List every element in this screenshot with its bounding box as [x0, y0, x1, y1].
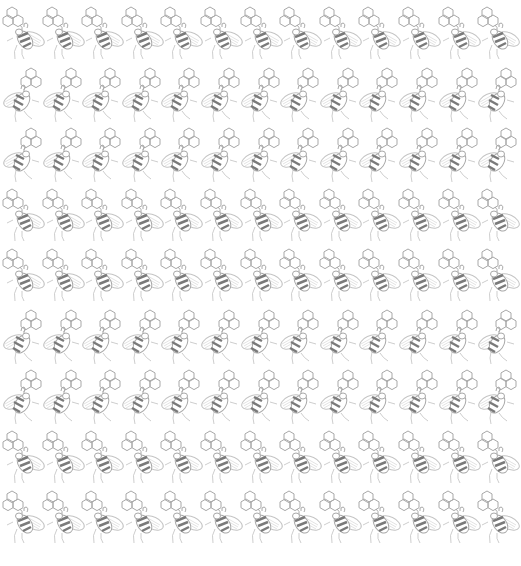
bee-honeycomb-icon: [360, 429, 404, 487]
bee-honeycomb-icon: [4, 429, 48, 487]
bee-honeycomb-icon: [202, 247, 246, 305]
bee-honeycomb-icon: [440, 489, 484, 547]
bee-honeycomb-icon: [44, 66, 88, 124]
bee-honeycomb-icon: [83, 489, 127, 547]
bee-honeycomb-icon: [321, 187, 365, 245]
bee-honeycomb-icon: [162, 308, 206, 366]
bee-honeycomb-icon: [321, 66, 365, 124]
bee-honeycomb-icon: [202, 66, 246, 124]
bee-honeycomb-icon: [123, 5, 167, 63]
bee-honeycomb-icon: [44, 429, 88, 487]
bee-honeycomb-icon: [4, 308, 48, 366]
bee-honeycomb-icon: [400, 187, 444, 245]
bee-honeycomb-icon: [360, 5, 404, 63]
bee-honeycomb-icon: [479, 126, 521, 184]
bee-honeycomb-icon: [242, 247, 286, 305]
bee-honeycomb-icon: [479, 368, 521, 426]
bee-honeycomb-icon: [162, 66, 206, 124]
bee-honeycomb-icon: [321, 247, 365, 305]
bee-honeycomb-icon: [162, 5, 206, 63]
bee-honeycomb-icon: [400, 368, 444, 426]
bee-honeycomb-icon: [83, 5, 127, 63]
bee-honeycomb-icon: [360, 368, 404, 426]
bee-honeycomb-icon: [123, 126, 167, 184]
bee-honeycomb-icon: [162, 187, 206, 245]
bee-honeycomb-icon: [281, 429, 325, 487]
bee-honeycomb-icon: [44, 489, 88, 547]
bee-honeycomb-icon: [281, 5, 325, 63]
bee-honeycomb-icon: [123, 247, 167, 305]
bee-honeycomb-icon: [123, 489, 167, 547]
bee-honeycomb-icon: [44, 126, 88, 184]
bee-honeycomb-icon: [242, 187, 286, 245]
bee-honeycomb-icon: [440, 308, 484, 366]
bee-honeycomb-icon: [479, 308, 521, 366]
bee-honeycomb-icon: [321, 126, 365, 184]
bee-honeycomb-icon: [281, 308, 325, 366]
bee-honeycomb-icon: [202, 5, 246, 63]
bee-honeycomb-icon: [400, 5, 444, 63]
bee-honeycomb-icon: [400, 66, 444, 124]
bee-honeycomb-icon: [202, 489, 246, 547]
bee-honeycomb-icon: [321, 368, 365, 426]
bee-honeycomb-icon: [281, 126, 325, 184]
bee-honeycomb-icon: [242, 489, 286, 547]
bee-honeycomb-icon: [400, 489, 444, 547]
bee-honeycomb-icon: [83, 368, 127, 426]
bee-honeycomb-icon: [281, 247, 325, 305]
bee-honeycomb-icon: [360, 187, 404, 245]
bee-honeycomb-icon: [281, 187, 325, 245]
bee-honeycomb-icon: [83, 66, 127, 124]
bee-honeycomb-icon: [440, 66, 484, 124]
bee-honeycomb-icon: [44, 368, 88, 426]
bee-honeycomb-icon: [162, 126, 206, 184]
bee-honeycomb-icon: [321, 5, 365, 63]
bee-honeycomb-icon: [83, 187, 127, 245]
bee-honeycomb-icon: [162, 247, 206, 305]
bee-honeycomb-icon: [123, 66, 167, 124]
bee-honeycomb-icon: [44, 247, 88, 305]
bee-honeycomb-icon: [281, 489, 325, 547]
bee-honeycomb-icon: [400, 308, 444, 366]
bee-honeycomb-icon: [321, 489, 365, 547]
bee-pattern-background: [0, 0, 521, 566]
bee-honeycomb-icon: [479, 5, 521, 63]
bee-honeycomb-icon: [4, 368, 48, 426]
bee-honeycomb-icon: [440, 5, 484, 63]
bee-honeycomb-icon: [440, 187, 484, 245]
bee-honeycomb-icon: [400, 126, 444, 184]
bee-honeycomb-icon: [479, 66, 521, 124]
bee-honeycomb-icon: [83, 429, 127, 487]
bee-honeycomb-icon: [440, 368, 484, 426]
bee-honeycomb-icon: [44, 5, 88, 63]
bee-honeycomb-icon: [202, 368, 246, 426]
bee-honeycomb-icon: [400, 247, 444, 305]
bee-honeycomb-icon: [83, 126, 127, 184]
bee-honeycomb-icon: [321, 308, 365, 366]
bee-honeycomb-icon: [162, 489, 206, 547]
bee-honeycomb-icon: [360, 489, 404, 547]
bee-honeycomb-icon: [360, 308, 404, 366]
bee-honeycomb-icon: [479, 187, 521, 245]
bee-honeycomb-icon: [202, 308, 246, 366]
bee-honeycomb-icon: [242, 368, 286, 426]
bee-honeycomb-icon: [360, 247, 404, 305]
bee-honeycomb-icon: [202, 429, 246, 487]
bee-honeycomb-icon: [321, 429, 365, 487]
bee-honeycomb-icon: [123, 187, 167, 245]
bee-honeycomb-icon: [242, 308, 286, 366]
bee-honeycomb-icon: [479, 247, 521, 305]
bee-honeycomb-icon: [4, 489, 48, 547]
bee-honeycomb-icon: [440, 429, 484, 487]
bee-honeycomb-icon: [440, 126, 484, 184]
bee-honeycomb-icon: [360, 126, 404, 184]
bee-honeycomb-icon: [202, 126, 246, 184]
bee-honeycomb-icon: [162, 368, 206, 426]
bee-honeycomb-icon: [123, 429, 167, 487]
bee-honeycomb-icon: [4, 5, 48, 63]
bee-honeycomb-icon: [123, 368, 167, 426]
bee-honeycomb-icon: [242, 429, 286, 487]
bee-honeycomb-icon: [162, 429, 206, 487]
bee-honeycomb-icon: [4, 247, 48, 305]
bee-honeycomb-icon: [83, 308, 127, 366]
